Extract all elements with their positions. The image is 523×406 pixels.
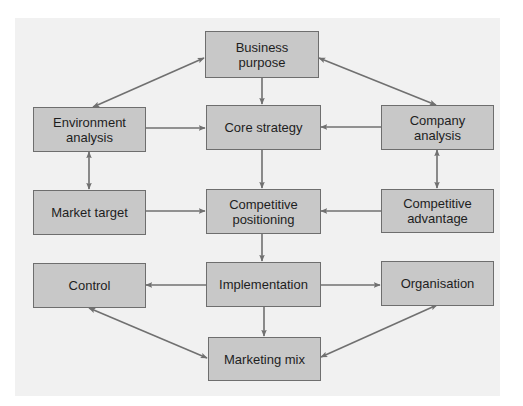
node-label: Marketing mix bbox=[224, 352, 305, 367]
node-label-line: Environment bbox=[53, 115, 126, 130]
node-core-strategy: Core strategy bbox=[206, 105, 321, 150]
node-environment-analysis: Environment analysis bbox=[33, 107, 146, 152]
node-control: Control bbox=[33, 263, 146, 308]
node-label-line: analysis bbox=[410, 128, 466, 143]
node-label-line: positioning bbox=[229, 212, 298, 227]
node-label-line: Business bbox=[236, 40, 289, 55]
node-market-target: Market target bbox=[33, 190, 146, 235]
arrow-business-company bbox=[319, 58, 436, 105]
arrow-control-mix bbox=[89, 308, 207, 358]
node-label: Core strategy bbox=[224, 120, 302, 135]
node-label-line: Competitive bbox=[229, 197, 298, 212]
node-competitive-positioning: Competitive positioning bbox=[206, 189, 321, 234]
node-competitive-advantage: Competitive advantage bbox=[381, 189, 494, 233]
node-implementation: Implementation bbox=[206, 262, 321, 307]
node-label-line: advantage bbox=[403, 211, 472, 226]
node-company-analysis: Company analysis bbox=[381, 105, 494, 150]
node-business-purpose: Business purpose bbox=[205, 31, 319, 78]
arrow-business-environment bbox=[93, 58, 204, 107]
node-label-line: Company bbox=[410, 113, 466, 128]
node-label-line: purpose bbox=[236, 55, 289, 70]
node-label: Organisation bbox=[401, 276, 475, 291]
node-label: Market target bbox=[51, 205, 128, 220]
node-label-line: Competitive bbox=[403, 196, 472, 211]
node-marketing-mix: Marketing mix bbox=[208, 337, 321, 381]
node-label-line: analysis bbox=[53, 130, 126, 145]
node-label: Implementation bbox=[219, 277, 308, 292]
arrow-organisation-mix bbox=[321, 305, 437, 357]
node-label: Control bbox=[69, 278, 111, 293]
node-organisation: Organisation bbox=[381, 261, 494, 306]
